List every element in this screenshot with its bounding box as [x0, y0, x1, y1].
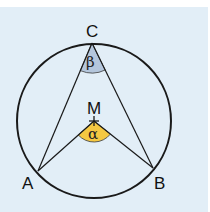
label-A: A	[22, 174, 34, 193]
label-C: C	[86, 22, 98, 41]
segment-MB	[94, 121, 153, 168]
segment-CA	[38, 43, 92, 171]
label-M: M	[87, 99, 101, 118]
label-B: B	[154, 174, 165, 193]
label-alpha: α	[88, 125, 98, 143]
segment-MA	[38, 121, 94, 171]
inscribed-angle-diagram: C M A B β α	[0, 0, 210, 212]
label-beta: β	[86, 53, 95, 71]
